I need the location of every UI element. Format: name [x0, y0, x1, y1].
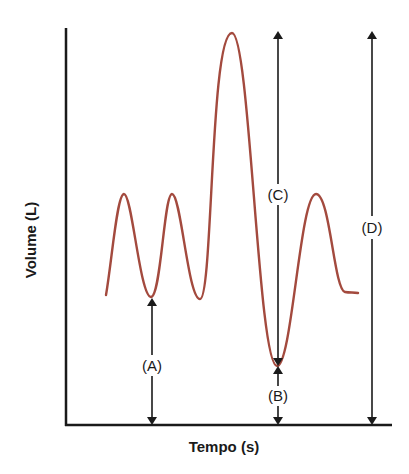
- arrow-d: (D): [362, 35, 383, 421]
- volume-curve: [106, 33, 358, 366]
- arrow-a: (A): [142, 302, 162, 421]
- arrow-a-label: (A): [142, 357, 162, 374]
- arrow-b-label: (B): [268, 387, 288, 404]
- y-axis-title: Volume (L): [22, 202, 39, 278]
- axes: [65, 28, 392, 426]
- arrow-c-label: (C): [268, 186, 289, 203]
- spirogram-diagram: (A) (C) (B) (D) Volume (L) Tempo (s): [0, 0, 409, 474]
- arrow-c: (C): [268, 35, 289, 362]
- x-axis-title: Tempo (s): [189, 438, 260, 455]
- arrow-b: (B): [268, 370, 288, 421]
- arrow-d-label: (D): [362, 219, 383, 236]
